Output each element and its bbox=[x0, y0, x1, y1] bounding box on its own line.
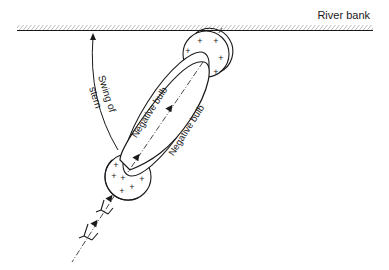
svg-text:+: + bbox=[185, 46, 190, 56]
river-bank bbox=[17, 25, 373, 31]
svg-text:+: + bbox=[111, 171, 116, 181]
svg-text:+: + bbox=[139, 174, 144, 184]
river-bank-hatching bbox=[17, 25, 373, 30]
svg-text:+: + bbox=[129, 182, 134, 192]
swing-of-stern-label: Swing of stern bbox=[85, 74, 119, 118]
svg-text:+: + bbox=[213, 36, 218, 46]
river-bank-label: River bank bbox=[317, 9, 370, 21]
svg-text:+: + bbox=[213, 67, 218, 77]
ship-bank-interaction-diagram: River bank Swing of stern + + bbox=[0, 0, 389, 270]
arrow-up-icon bbox=[90, 33, 96, 40]
svg-text:+: + bbox=[218, 53, 223, 63]
svg-text:+: + bbox=[197, 36, 202, 46]
svg-text:+: + bbox=[120, 173, 125, 183]
direction-arrow-icon bbox=[90, 218, 100, 228]
svg-text:+: + bbox=[119, 186, 124, 196]
svg-text:+: + bbox=[113, 160, 118, 170]
